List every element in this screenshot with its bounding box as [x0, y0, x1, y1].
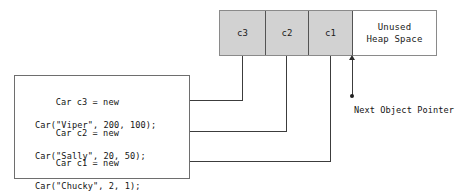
diagram-canvas: c3 c2 c1 Unused Heap Space Next Object P… — [0, 0, 470, 191]
next-object-pointer-line — [352, 60, 353, 96]
code-box: Car c3 = new Car("Viper", 200, 100); Car… — [14, 75, 190, 179]
heap-cell-c2: c2 — [266, 11, 309, 55]
code-statement-c1-line2: Car("Chucky", 2, 1); — [24, 181, 140, 192]
connector-c3-vertical — [242, 56, 243, 101]
code-statement-c1: Car c1 = new Car("Chucky", 2, 1); — [24, 146, 140, 191]
heap-cell-c3: c3 — [220, 11, 266, 55]
code-statement-c3-line1: Car c3 = new — [56, 97, 119, 107]
heap-cell-c1: c1 — [309, 11, 353, 55]
heap-bar: c3 c2 c1 Unused Heap Space — [219, 10, 437, 56]
heap-cell-c2-label: c2 — [281, 27, 292, 39]
connector-c1-horizontal — [171, 161, 331, 162]
next-object-pointer-label: Next Object Pointer — [354, 105, 454, 115]
heap-cell-c3-label: c3 — [237, 27, 248, 39]
heap-cell-unused: Unused Heap Space — [353, 11, 436, 55]
heap-unused-line2: Heap Space — [366, 33, 422, 45]
next-object-pointer-arrowhead — [349, 55, 355, 60]
heap-unused-label: Unused Heap Space — [366, 21, 422, 45]
code-statement-c2-line1: Car c2 = new — [56, 128, 119, 138]
next-object-pointer-dot — [350, 94, 354, 98]
connector-c2-vertical — [286, 56, 287, 132]
connector-c1-vertical — [330, 56, 331, 162]
heap-unused-line1: Unused — [366, 21, 422, 33]
code-statement-c1-line1: Car c1 = new — [56, 158, 119, 168]
heap-cell-c1-label: c1 — [325, 27, 336, 39]
